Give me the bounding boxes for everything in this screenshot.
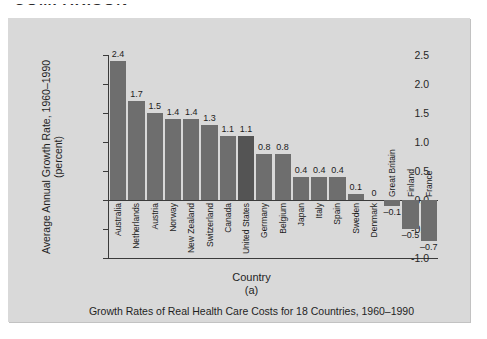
y-tick-mark — [103, 171, 108, 172]
bar-value-label: 1.4 — [167, 107, 180, 117]
bar[interactable] — [238, 136, 254, 200]
bar-slot: 1.7Netherlands — [127, 55, 145, 258]
figure-caption: Growth Rates of Real Health Care Costs f… — [8, 305, 487, 317]
bar-slot: 0.4Japan — [292, 55, 310, 258]
bar-slot: 0.8Germany — [255, 55, 273, 258]
y-tick-mark — [103, 55, 108, 56]
page-heading-fragment: COMPARISON — [14, 0, 128, 8]
x-category-label: United States — [241, 203, 251, 254]
x-category-label: New Zealand — [186, 203, 196, 253]
bar-value-label: 2.4 — [112, 49, 125, 59]
figure-panel: Average Annual Growth Rate, 1960–1990 (p… — [8, 18, 470, 322]
bar[interactable] — [311, 177, 327, 200]
bar-value-label: 1.7 — [130, 89, 143, 99]
subfigure-label: (a) — [8, 284, 487, 296]
figure-root: COMPARISON Average Annual Growth Rate, 1… — [0, 0, 487, 339]
bar[interactable] — [183, 119, 199, 200]
y-tick-mark — [103, 84, 108, 85]
bar[interactable] — [384, 200, 400, 206]
x-category-label: Germany — [259, 203, 269, 238]
x-axis-line — [108, 258, 438, 259]
bar-value-label: –0.1 — [384, 207, 402, 217]
bar-value-label: 0.8 — [276, 142, 289, 152]
x-category-label: Netherlands — [131, 203, 141, 249]
bar[interactable] — [329, 177, 345, 200]
bar-slot: –0.1Great Britain — [383, 55, 401, 258]
bar-slot: 0Denmark — [365, 55, 383, 258]
bar-slot: 1.5Austria — [146, 55, 164, 258]
bar-value-label: 1.1 — [222, 124, 235, 134]
bar-slot: 0.4Italy — [310, 55, 328, 258]
x-category-label: Great Britain — [387, 149, 397, 197]
bar-slot: 0.1Sweden — [347, 55, 365, 258]
bar[interactable] — [293, 177, 309, 200]
bar[interactable] — [256, 154, 272, 200]
bar[interactable] — [128, 101, 144, 200]
x-category-label: Norway — [168, 203, 178, 232]
bar-slot: 1.1Canada — [219, 55, 237, 258]
x-category-label: Sweden — [351, 203, 361, 234]
bar-value-label: –0.7 — [420, 242, 438, 252]
bar-value-label: 1.5 — [148, 101, 161, 111]
x-axis-title: Country — [8, 271, 487, 283]
y-tick-mark — [103, 142, 108, 143]
x-category-label: France — [424, 171, 434, 197]
bar-value-label: –0.5 — [402, 230, 420, 240]
x-category-label: Canada — [223, 203, 233, 233]
x-category-label: Switzerland — [205, 203, 215, 247]
y-axis-title-line2: (percent) — [52, 135, 64, 177]
y-tick-mark — [103, 229, 108, 230]
bar[interactable] — [402, 200, 418, 229]
bar-value-label: 0 — [371, 188, 376, 198]
x-category-label: Austria — [150, 203, 160, 229]
bar-value-label: 0.8 — [258, 142, 271, 152]
x-category-label: Italy — [314, 203, 324, 219]
bar-slot: 1.4New Zealand — [182, 55, 200, 258]
bar[interactable] — [220, 136, 236, 200]
bar-slot: –0.5Finland — [401, 55, 419, 258]
bar-value-label: 0.4 — [331, 165, 344, 175]
bar-slot: 0.4Spain — [328, 55, 346, 258]
bar[interactable] — [201, 125, 217, 200]
bar-slot: 1.4Norway — [164, 55, 182, 258]
bar-slot: 0.8Belgium — [274, 55, 292, 258]
bar[interactable] — [165, 119, 181, 200]
bar-value-label: 1.4 — [185, 107, 198, 117]
bar-value-label: 1.1 — [240, 124, 253, 134]
y-tick-mark — [103, 113, 108, 114]
bar[interactable] — [147, 113, 163, 200]
x-category-label: Spain — [332, 203, 342, 225]
x-category-label: Denmark — [369, 203, 379, 237]
y-axis-title-line1: Average Annual Growth Rate, 1960–1990 — [40, 59, 52, 253]
bar[interactable] — [421, 200, 437, 241]
y-tick-mark — [103, 200, 108, 201]
bar-value-label: 0.4 — [313, 165, 326, 175]
bar[interactable] — [348, 194, 364, 200]
y-tick-mark — [103, 258, 108, 259]
bar-value-label: 1.3 — [203, 113, 216, 123]
bar-group: 2.4Australia1.7Netherlands1.5Austria1.4N… — [109, 55, 438, 258]
bar[interactable] — [275, 154, 291, 200]
bar-value-label: 0.4 — [295, 165, 308, 175]
bar-slot: 1.3Switzerland — [200, 55, 218, 258]
y-axis-title: Average Annual Growth Rate, 1960–1990 (p… — [32, 55, 72, 258]
bar-slot: 1.1United States — [237, 55, 255, 258]
bar-slot: 2.4Australia — [109, 55, 127, 258]
x-category-label: Finland — [406, 169, 416, 197]
x-category-label: Japan — [296, 203, 306, 226]
bar-value-label: 0.1 — [349, 182, 362, 192]
x-category-label: Belgium — [278, 203, 288, 234]
plot-area: 2.52.01.51.00.50.0-0.5-1.0 2.4Australia1… — [108, 55, 438, 258]
bar-slot: –0.7France — [420, 55, 438, 258]
bar[interactable] — [110, 61, 126, 200]
x-category-label: Australia — [113, 203, 123, 236]
